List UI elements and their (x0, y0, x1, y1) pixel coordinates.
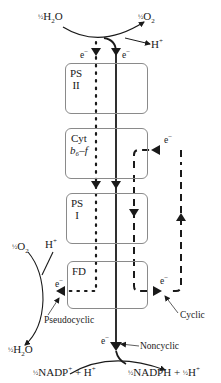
top-proton-label: H+ (151, 38, 163, 50)
cyclic-label: Cyclic (180, 309, 205, 321)
cyclic-arrowhead-up (176, 213, 186, 221)
electron-label-pseudocyclic: e− (55, 278, 63, 290)
proton-release-arrow (125, 38, 150, 44)
complex-cyt-b6f: Cyt b₆–f (65, 128, 148, 179)
pathway-diagram (0, 0, 221, 383)
complex-fd: FD (67, 261, 148, 309)
electron-label-cyclic-bottom: e− (160, 275, 168, 287)
side-water-label: ½H2O (8, 343, 33, 356)
pseudocyclic-oxygen-curve (25, 252, 43, 345)
pseudocyclic-label: Pseudocyclic (44, 314, 94, 326)
electron-label-top-left: e− (80, 49, 88, 61)
side-proton-label: H+ (45, 238, 57, 250)
noncyclic-pointer (121, 344, 139, 346)
electron-label-cyclic-top: e− (164, 134, 172, 146)
pseudocyclic-proton-join (42, 252, 53, 275)
ps2-label-line1: PS (70, 67, 82, 79)
water-splitting-arc (63, 22, 144, 37)
bottom-nadph-label: ½NADPH + ½H+ (128, 366, 200, 379)
complex-ps2: PS II (65, 63, 148, 114)
cyclic-arrowhead-left (151, 145, 160, 155)
cyt-label-line1: Cyt (70, 132, 88, 144)
pseudocyclic-pointer (48, 298, 59, 315)
top-water-label: ½H2O (38, 10, 63, 23)
fd-label: FD (72, 265, 86, 277)
ps1-label-line1: PS (71, 197, 83, 209)
cyclic-arrowhead-right (153, 286, 162, 296)
noncyclic-arrowhead-bottom (110, 342, 122, 351)
complex-ps1: PS I (66, 193, 148, 244)
cyt-label-line2: b₆–f (70, 144, 88, 156)
pseudocyclic-arrowhead-top (91, 48, 101, 56)
noncyclic-arrowhead-top (111, 48, 121, 56)
bottom-nadp-label: ½NADP+ + H+ (33, 366, 96, 379)
noncyclic-arrowhead-mid (111, 181, 121, 189)
cyclic-pointer (165, 296, 178, 313)
pseudocyclic-arrowhead-mid (91, 181, 101, 189)
ps2-label-line2: II (70, 79, 82, 91)
side-oxygen-label: ½O2 (12, 240, 29, 253)
noncyclic-label: Noncyclic (140, 340, 179, 352)
noncyclic-tail (116, 351, 126, 364)
electron-label-noncyclic: e− (101, 335, 109, 347)
electron-label-top-right: e− (122, 49, 130, 61)
top-oxygen-label: ½O2 (138, 10, 155, 23)
ps1-label-line2: I (71, 209, 83, 221)
